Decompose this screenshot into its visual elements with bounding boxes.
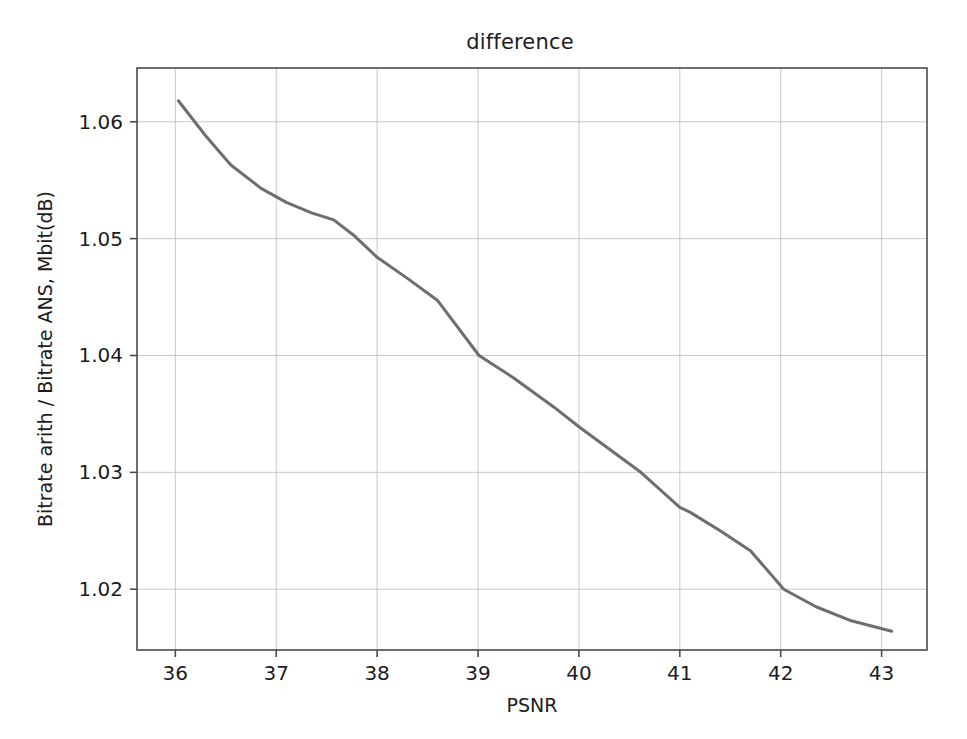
y-tick-label: 1.04 xyxy=(78,343,123,367)
axis-ticks xyxy=(130,122,882,657)
x-tick-label: 39 xyxy=(465,661,490,685)
y-tick-label: 1.03 xyxy=(78,460,123,484)
x-tick-label: 41 xyxy=(667,661,692,685)
axis-tick-labels: 36373839404142431.021.031.041.051.06 xyxy=(78,110,894,685)
x-tick-label: 43 xyxy=(869,661,894,685)
x-tick-label: 40 xyxy=(566,661,591,685)
line-chart-plot: 36373839404142431.021.031.041.051.06 PSN… xyxy=(0,0,967,739)
data-line-difference xyxy=(178,101,891,632)
axis-spines xyxy=(137,68,927,650)
y-tick-label: 1.02 xyxy=(78,577,123,601)
data-series-group xyxy=(178,101,891,632)
x-tick-label: 36 xyxy=(163,661,188,685)
y-axis-title: Bitrate arith / Bitrate ANS, Mbit(dB) xyxy=(34,191,56,527)
axis-titles: PSNRBitrate arith / Bitrate ANS, Mbit(dB… xyxy=(34,191,557,716)
x-tick-label: 42 xyxy=(768,661,793,685)
gridlines xyxy=(137,68,927,650)
x-axis-title: PSNR xyxy=(507,694,558,716)
y-tick-label: 1.05 xyxy=(78,227,123,251)
x-tick-label: 38 xyxy=(364,661,389,685)
y-tick-label: 1.06 xyxy=(78,110,123,134)
chart-figure: difference 36373839404142431.021.031.041… xyxy=(0,0,967,739)
x-tick-label: 37 xyxy=(264,661,289,685)
plot-border xyxy=(137,68,927,650)
